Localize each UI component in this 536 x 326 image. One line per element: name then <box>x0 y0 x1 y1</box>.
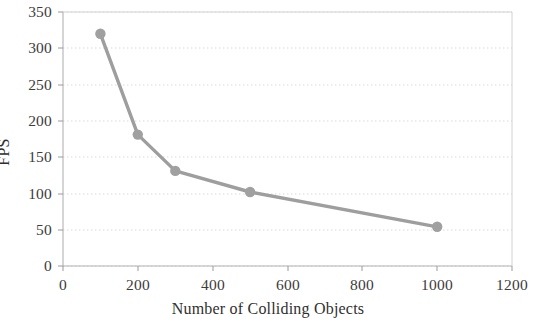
y-tick-label-200: 200 <box>8 112 52 130</box>
series-line <box>100 34 437 227</box>
data-series-fps <box>95 29 442 232</box>
y-tick-label-350: 350 <box>8 3 52 21</box>
y-tick-label-300: 300 <box>8 39 52 57</box>
y-tick-label-0: 0 <box>8 257 52 275</box>
y-tick-label-100: 100 <box>8 185 52 203</box>
y-tick-label-150: 150 <box>8 148 52 166</box>
data-point-marker <box>432 222 442 232</box>
data-point-marker <box>170 166 180 176</box>
y-tick-label-250: 250 <box>8 76 52 94</box>
x-tick-label-200: 200 <box>126 276 150 294</box>
fps-vs-colliding-objects-chart: 350 300 250 200 150 100 50 0 0 200 400 6… <box>0 0 536 326</box>
chart-canvas <box>0 0 536 326</box>
x-tick-label-800: 800 <box>350 276 374 294</box>
x-tick-label-0: 0 <box>59 276 67 294</box>
y-axis-ticks <box>58 12 63 266</box>
gridlines-horizontal <box>63 12 512 266</box>
x-tick-label-600: 600 <box>276 276 300 294</box>
y-tick-label-50: 50 <box>8 221 52 239</box>
plot-frame <box>63 12 512 266</box>
data-point-marker <box>245 187 255 197</box>
x-tick-label-400: 400 <box>201 276 225 294</box>
y-axis-title: FPS <box>0 122 13 182</box>
x-axis-title: Number of Colliding Objects <box>0 300 536 318</box>
x-tick-label-1000: 1000 <box>421 276 453 294</box>
x-tick-label-1200: 1200 <box>496 276 528 294</box>
x-axis-ticks <box>63 266 512 271</box>
data-point-marker <box>95 29 105 39</box>
data-point-marker <box>133 129 143 139</box>
